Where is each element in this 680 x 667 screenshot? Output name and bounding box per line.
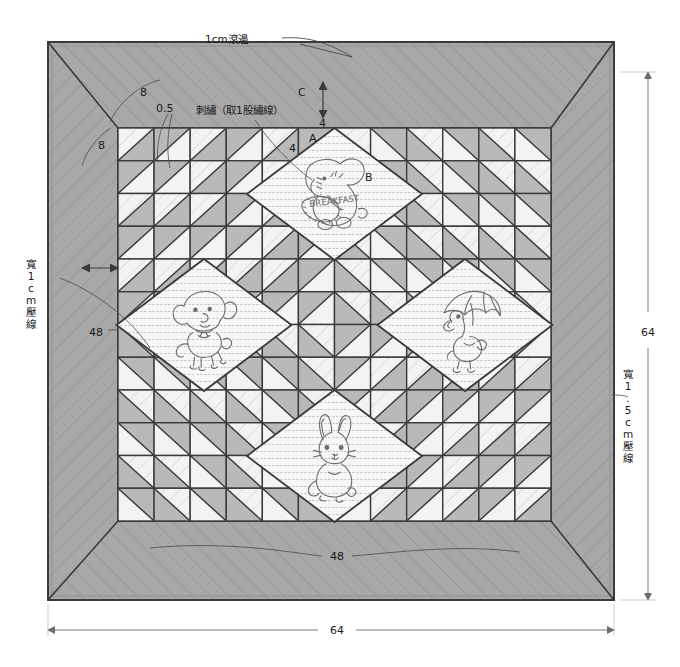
pieced-field: BREAKFAST — [117, 128, 553, 522]
border-top — [48, 42, 614, 128]
label-inner-bottom: 48 — [330, 550, 344, 563]
quilt-diagram-svg: BREAKFAST — [0, 0, 680, 667]
label-c-unit: 4 — [319, 117, 326, 130]
border-right — [551, 42, 614, 600]
label-eight-lower: 8 — [98, 139, 105, 152]
label-outer-right: 64 — [641, 326, 655, 339]
label-eight-upper: 8 — [140, 86, 147, 99]
binding-label: 1cm滾邊 — [205, 33, 249, 45]
label-b: B — [365, 171, 373, 184]
quilt-body: BREAKFAST — [48, 42, 614, 600]
label-quilting-left: 寬1cm壓線 — [26, 258, 37, 330]
label-outer-bottom: 64 — [330, 624, 344, 637]
label-c: C — [298, 86, 306, 99]
border-left — [48, 42, 118, 600]
label-unit-inner: 4 — [289, 142, 296, 155]
label-embroidery: 刺繡（取1股繡線） — [196, 104, 283, 116]
label-a: A — [309, 132, 317, 145]
quilt-diagram-canvas: BREAKFAST — [0, 0, 680, 667]
label-inner-left: 48 — [89, 326, 103, 339]
label-seam-allowance: 0.5 — [156, 102, 174, 115]
